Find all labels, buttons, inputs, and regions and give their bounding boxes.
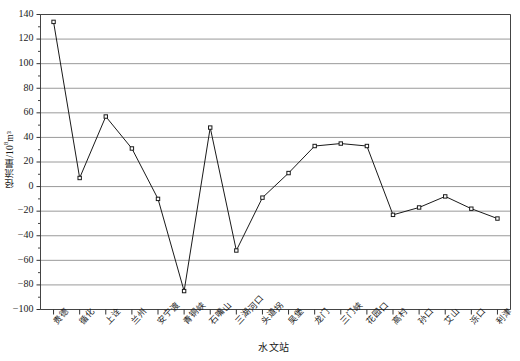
data-point-marker [417,206,420,209]
data-line-series [54,22,498,291]
y-axis-tick-label: 120 [19,32,34,43]
data-point-marker [287,171,290,174]
chart-plot-area: 140120100806040200−20−40−60−80−100 [0,0,520,361]
data-point-marker [339,142,342,145]
data-point-marker [182,289,185,292]
y-axis-tick-label: 60 [24,106,34,117]
y-axis-tick-label: 100 [19,57,34,68]
y-axis-tick-label: −60 [18,254,34,265]
y-axis-tick-label: −80 [18,278,34,289]
data-point-marker [444,195,447,198]
data-point-marker [209,126,212,129]
data-point-marker [313,144,316,147]
y-axis-tick-label: 0 [29,180,34,191]
data-point-marker [496,217,499,220]
data-point-marker [261,196,264,199]
y-axis-tick-label: −40 [18,229,34,240]
data-point-marker [235,249,238,252]
data-point-marker [470,207,473,210]
y-axis-tick-label: −100 [13,303,34,314]
y-axis-tick-label: −20 [18,204,34,215]
y-axis-tick-label: 20 [24,155,34,166]
data-point-marker [156,197,159,200]
data-point-marker [391,213,394,216]
y-axis-tick-label: 40 [24,131,34,142]
y-axis-tick-label: 80 [24,82,34,93]
x-axis-title: 水文站 [258,339,290,354]
data-point-marker [78,176,81,179]
data-point-marker [365,144,368,147]
data-point-marker [104,115,107,118]
y-axis-tick-label: 140 [19,8,34,19]
data-point-marker [52,20,55,23]
data-point-marker [130,147,133,150]
chart-figure: 140120100806040200−20−40−60−80−100 径流量/1… [0,0,520,361]
